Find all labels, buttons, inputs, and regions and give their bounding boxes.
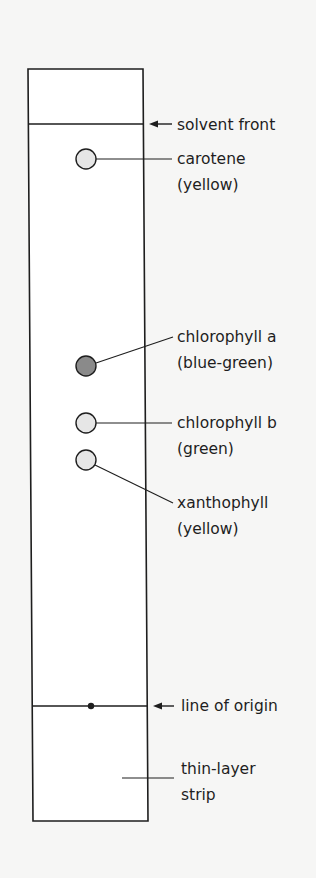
carotene-color-label: (yellow) [177, 176, 239, 194]
xanthophyll-label: xanthophyll [177, 494, 268, 512]
strip-label: thin-layer [181, 760, 256, 778]
chlorophyll-b-color-label: (green) [177, 440, 234, 458]
xanthophyll-color-label: (yellow) [177, 520, 239, 538]
line-of-origin-label: line of origin [181, 697, 278, 715]
chlorophyll-b-spot [76, 413, 96, 433]
chlorophyll-a-color-label: (blue-green) [177, 354, 273, 372]
chromatography-diagram: solvent front carotene (yellow) chloroph… [0, 0, 316, 878]
solvent-front-arrow-icon [149, 121, 172, 128]
thin-layer-strip [28, 69, 148, 821]
chlorophyll-a-label: chlorophyll a [177, 328, 277, 346]
chlorophyll-b-label: chlorophyll b [177, 414, 277, 432]
carotene-label: carotene [177, 150, 246, 168]
origin-arrow-icon [153, 703, 174, 710]
origin-sample-dot [88, 703, 94, 709]
solvent-front-label: solvent front [177, 116, 275, 134]
xanthophyll-spot [76, 450, 96, 470]
chlorophyll-a-spot [76, 356, 96, 376]
carotene-spot [76, 149, 96, 169]
strip-label-line2: strip [181, 786, 216, 804]
